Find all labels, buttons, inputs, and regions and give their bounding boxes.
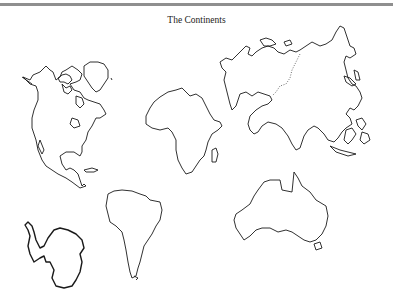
greenland-outline xyxy=(84,62,112,92)
south-america-outline xyxy=(106,190,162,280)
continents-map xyxy=(0,0,393,305)
antarctica-outline xyxy=(25,222,84,288)
australia-outline xyxy=(234,172,328,250)
eurasia-outline xyxy=(220,26,370,156)
africa-outline xyxy=(146,88,222,174)
north-america-outline xyxy=(22,66,106,188)
